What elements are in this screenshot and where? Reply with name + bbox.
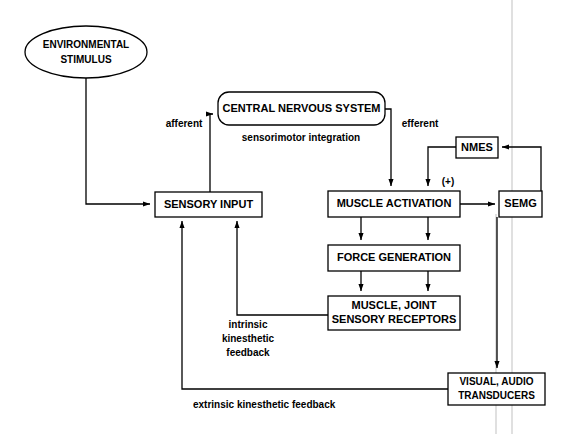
node-muscle-joint-sensory-receptors[interactable]: MUSCLE, JOINT SENSORY RECEPTORS bbox=[328, 296, 460, 330]
sensory-input-label: SENSORY INPUT bbox=[164, 198, 254, 210]
label-intrinsic-feedback-line3: feedback bbox=[226, 347, 270, 358]
node-force-generation[interactable]: FORCE GENERATION bbox=[328, 245, 460, 271]
node-muscle-activation[interactable]: MUSCLE ACTIVATION bbox=[328, 191, 460, 217]
flow-diagram: ENVIRONMENTAL STIMULUS CENTRAL NERVOUS S… bbox=[0, 0, 564, 434]
label-intrinsic-feedback-line2: kinesthetic bbox=[222, 333, 275, 344]
sensorimotor-integration-caption: sensorimotor integration bbox=[242, 132, 360, 143]
edge-intrinsic-kinesthetic-feedback bbox=[237, 221, 328, 315]
muscle-joint-sensory-receptors-label-line2: SENSORY RECEPTORS bbox=[332, 313, 457, 325]
diagram-canvas: ENVIRONMENTAL STIMULUS CENTRAL NERVOUS S… bbox=[0, 0, 564, 434]
muscle-activation-label: MUSCLE ACTIVATION bbox=[337, 197, 452, 209]
central-nervous-system-label: CENTRAL NERVOUS SYSTEM bbox=[223, 102, 381, 114]
node-visual-audio-transducers[interactable]: VISUAL, AUDIO TRANSDUCERS bbox=[448, 373, 545, 405]
nmes-label: NMES bbox=[461, 141, 493, 153]
node-environmental-stimulus[interactable]: ENVIRONMENTAL STIMULUS bbox=[25, 26, 147, 78]
visual-audio-transducers-label-line1: VISUAL, AUDIO bbox=[459, 376, 533, 387]
label-afferent: afferent bbox=[166, 118, 203, 129]
muscle-joint-sensory-receptors-label-line1: MUSCLE, JOINT bbox=[352, 299, 437, 311]
label-extrinsic-feedback: extrinsic kinesthetic feedback bbox=[193, 399, 336, 410]
edge-afferent-sensory-input-to-cns bbox=[210, 114, 213, 192]
edge-efferent-cns-to-muscle-activation bbox=[385, 109, 391, 186]
node-central-nervous-system[interactable]: CENTRAL NERVOUS SYSTEM bbox=[218, 92, 385, 125]
environmental-stimulus-label-line1: ENVIRONMENTAL bbox=[43, 39, 129, 50]
environmental-stimulus-label-line2: STIMULUS bbox=[60, 54, 111, 65]
label-intrinsic-feedback-line1: intrinsic bbox=[229, 319, 268, 330]
edge-semg-to-nmes bbox=[502, 147, 541, 191]
semg-label: SEMG bbox=[504, 197, 536, 209]
label-plus-sign: (+) bbox=[442, 176, 455, 187]
node-sensory-input[interactable]: SENSORY INPUT bbox=[155, 192, 262, 217]
visual-audio-transducers-label-line2: TRANSDUCERS bbox=[458, 390, 535, 401]
edge-stimulus-to-sensory-input bbox=[86, 78, 150, 204]
force-generation-label: FORCE GENERATION bbox=[337, 251, 451, 263]
environmental-stimulus-shape bbox=[25, 26, 147, 78]
label-efferent: efferent bbox=[402, 118, 439, 129]
node-semg[interactable]: SEMG bbox=[499, 191, 542, 217]
node-nmes[interactable]: NMES bbox=[456, 137, 498, 158]
